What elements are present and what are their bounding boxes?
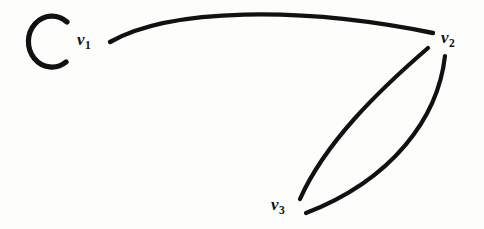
vertex-symbol-v2: v bbox=[441, 28, 449, 47]
vertex-label-v2: v2 bbox=[441, 29, 455, 49]
vertex-subscript-v3: 3 bbox=[279, 204, 285, 216]
vertex-label-v3: v3 bbox=[271, 196, 285, 216]
graph-figure: v1 v2 v3 bbox=[0, 0, 484, 229]
vertex-subscript-v2: 2 bbox=[449, 37, 455, 49]
edge-self-loop-v1 bbox=[28, 16, 67, 67]
vertex-label-v1: v1 bbox=[77, 31, 91, 51]
graph-canvas bbox=[0, 0, 484, 229]
vertex-symbol-v1: v bbox=[77, 30, 85, 49]
edge-v1-v2 bbox=[110, 14, 433, 42]
vertex-subscript-v1: 1 bbox=[85, 39, 91, 51]
edge-v2-v3-right bbox=[306, 56, 445, 213]
vertex-symbol-v3: v bbox=[271, 195, 279, 214]
edge-v2-v3-left bbox=[300, 48, 428, 199]
